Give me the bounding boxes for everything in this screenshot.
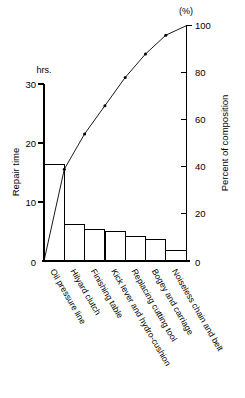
right-tick-label-100: 100 [195,20,211,31]
right-tick-label-80: 80 [195,67,206,78]
cumulative-point-1 [63,168,66,171]
right-tick-label-0: 0 [195,257,200,268]
pareto-chart-figure: 30 20 10 0 hrs. Repair time [0,0,245,398]
left-tick-label-20: 20 [25,138,36,149]
right-axis-unit: (%) [179,6,193,16]
bar-replacing-cutting-tool [125,236,145,261]
category-label-group: Oil pressure line Hilyard clutch Finishi… [48,267,225,368]
cumulative-point-3 [103,104,106,107]
left-axis-unit: hrs. [36,65,51,75]
bar-kick-lever-hydro-cushion [105,232,125,261]
chart-svg: 30 20 10 0 hrs. Repair time [0,0,245,398]
bar-hilyard-clutch [64,225,84,261]
cumulative-point-2 [83,132,86,135]
cumulative-point-4 [124,76,127,79]
cumulative-point-5 [144,53,147,56]
right-axis-title: Percent of composition [219,95,230,192]
left-tick-label-30: 30 [25,79,36,90]
left-tick-label-0: 0 [31,257,36,268]
left-axis-title: Repair time [10,148,21,197]
bar-bogey-and-carriage [146,240,166,261]
bar-group [44,164,186,261]
right-tick-label-40: 40 [195,161,206,172]
right-axis: 100 80 60 40 20 0 (%) Percent of composi… [179,6,230,268]
left-tick-label-10: 10 [25,197,36,208]
cumulative-point-6 [164,34,167,37]
bar-noiseless-chain-and-belt [166,250,186,261]
right-tick-label-20: 20 [195,208,206,219]
bar-finishing-table [85,230,105,261]
right-tick-label-60: 60 [195,114,206,125]
